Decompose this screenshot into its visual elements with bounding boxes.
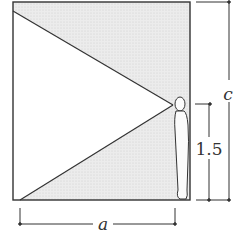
- label-a: a: [98, 214, 108, 234]
- label-1-5: 1.5: [195, 139, 222, 159]
- label-c: c: [223, 84, 233, 104]
- room-diagram: c 1.5 a: [0, 0, 241, 240]
